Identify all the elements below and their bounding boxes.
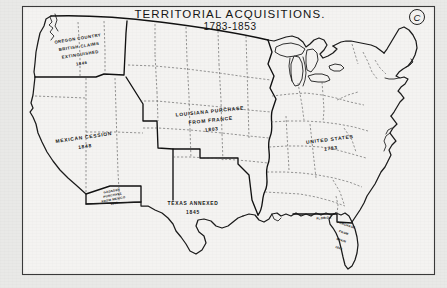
map-title: TERRITORIAL ACQUISITIONS. <box>134 8 325 20</box>
territorial-acquisitions-map: TERRITORIAL ACQUISITIONS. 1783-1853 C OR… <box>0 0 447 288</box>
label-texas-year: 1845 <box>186 210 200 215</box>
label-texas-line1: TEXAS ANNEXED <box>167 201 218 206</box>
lake-michigan <box>291 56 303 86</box>
marker-c-label: C <box>414 12 421 23</box>
map-subtitle: 1783-1853 <box>203 21 256 32</box>
lake-erie <box>308 74 330 82</box>
